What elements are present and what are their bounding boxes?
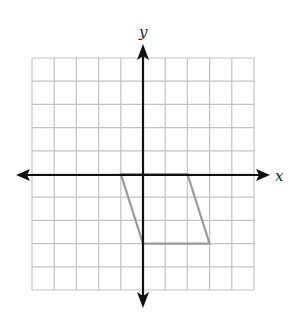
x-axis-label: x	[275, 167, 284, 185]
coordinate-plane: x y	[0, 0, 292, 318]
y-axis-label: y	[138, 23, 148, 41]
